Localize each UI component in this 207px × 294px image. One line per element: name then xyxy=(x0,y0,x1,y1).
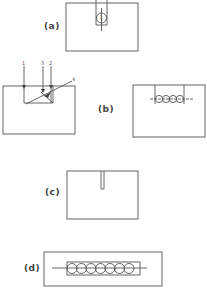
panel-d-circle-2 xyxy=(77,264,87,274)
arrow-2-head xyxy=(49,85,53,89)
panel-d-circle-7 xyxy=(124,264,134,274)
panel-d-circle-1 xyxy=(67,264,77,274)
arrow-1-label: 1 xyxy=(22,60,25,66)
arrow-3-label: 3 xyxy=(41,60,44,66)
diagonal-4 xyxy=(26,81,72,104)
diagram-canvas xyxy=(0,0,207,294)
panel-a-block xyxy=(66,3,138,51)
panel-a-circle-number: 1 xyxy=(100,14,103,20)
panel-d-circle-4 xyxy=(96,264,106,274)
panel-c-block xyxy=(67,171,138,219)
panel-c-label: (c) xyxy=(45,187,60,197)
panel-d-circle-6 xyxy=(115,264,125,274)
panel-d-circle-3 xyxy=(86,264,96,274)
panel-d-circle-5 xyxy=(105,264,115,274)
diagonal-4-label: 4 xyxy=(72,76,75,82)
panel-b-label: (b) xyxy=(98,104,114,114)
panel-a-label: (a) xyxy=(44,21,60,31)
panel-b-left-block xyxy=(3,86,75,134)
panel-d-label: (d) xyxy=(24,263,40,273)
arrow-2-label: 2 xyxy=(49,60,52,66)
panel-b-right-block xyxy=(133,85,205,137)
panel-d-block xyxy=(44,252,162,286)
arrow-1-head xyxy=(22,85,26,89)
